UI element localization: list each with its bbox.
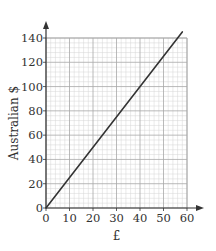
x-tick-label: 30 bbox=[109, 211, 124, 225]
y-axis-arrowhead-icon bbox=[43, 21, 49, 29]
grid-major-lines bbox=[46, 38, 187, 208]
x-tick-label: 0 bbox=[42, 211, 49, 225]
x-axis-title: £ bbox=[113, 229, 121, 243]
x-axis-arrowhead-icon bbox=[196, 205, 204, 211]
x-axis: 0102030405060 £ bbox=[42, 205, 204, 243]
y-tick-label: 100 bbox=[21, 80, 43, 94]
conversion-line bbox=[46, 32, 182, 208]
x-tick-label: 40 bbox=[133, 211, 148, 225]
y-tick-label: 60 bbox=[28, 128, 43, 142]
x-tick-label: 50 bbox=[156, 211, 171, 225]
x-tick-label: 20 bbox=[86, 211, 101, 225]
y-tick-label: 0 bbox=[36, 201, 43, 215]
y-tick-label: 140 bbox=[21, 31, 43, 45]
y-tick-label: 120 bbox=[21, 55, 43, 69]
x-tick-label: 10 bbox=[62, 211, 77, 225]
y-tick-labels: 020406080100120140 bbox=[21, 31, 46, 215]
y-tick-label: 20 bbox=[28, 177, 43, 191]
y-tick-label: 40 bbox=[28, 152, 43, 166]
conversion-graph: 0102030405060 £ 020406080100120140 Austr… bbox=[0, 0, 216, 251]
x-tick-labels: 0102030405060 bbox=[42, 208, 194, 225]
y-axis: 020406080100120140 Australian $ bbox=[7, 21, 49, 215]
y-tick-label: 80 bbox=[28, 104, 43, 118]
y-axis-title: Australian $ bbox=[7, 86, 21, 161]
x-tick-label: 60 bbox=[180, 211, 195, 225]
